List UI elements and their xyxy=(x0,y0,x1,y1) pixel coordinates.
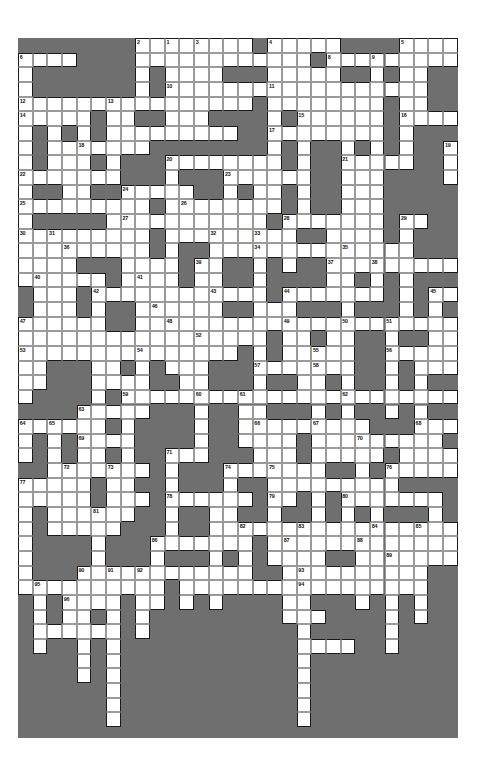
crossword-cell[interactable]: 44 xyxy=(282,287,297,302)
crossword-cell[interactable] xyxy=(47,580,62,595)
crossword-cell[interactable] xyxy=(18,331,33,346)
crossword-cell[interactable] xyxy=(106,668,121,683)
crossword-cell[interactable] xyxy=(370,287,385,302)
crossword-cell[interactable] xyxy=(326,390,341,405)
crossword-cell[interactable] xyxy=(135,331,150,346)
crossword-cell[interactable]: 26 xyxy=(179,199,194,214)
crossword-cell[interactable] xyxy=(326,82,341,97)
crossword-cell[interactable] xyxy=(238,229,253,244)
crossword-cell[interactable] xyxy=(150,317,165,332)
crossword-cell[interactable] xyxy=(18,258,33,273)
crossword-cell[interactable] xyxy=(77,580,92,595)
crossword-cell[interactable] xyxy=(341,639,356,654)
crossword-cell[interactable] xyxy=(428,390,443,405)
crossword-cell[interactable] xyxy=(150,38,165,53)
crossword-cell[interactable] xyxy=(428,419,443,434)
crossword-cell[interactable] xyxy=(91,522,106,537)
crossword-cell[interactable] xyxy=(399,463,414,478)
crossword-cell[interactable] xyxy=(121,258,136,273)
crossword-cell[interactable] xyxy=(282,97,297,112)
crossword-cell[interactable] xyxy=(179,595,194,610)
crossword-cell[interactable] xyxy=(326,214,341,229)
crossword-cell[interactable] xyxy=(194,361,209,376)
crossword-cell[interactable] xyxy=(18,434,33,449)
crossword-cell[interactable] xyxy=(179,448,194,463)
crossword-cell[interactable] xyxy=(77,273,92,288)
crossword-cell[interactable]: 78 xyxy=(165,492,180,507)
crossword-cell[interactable]: 84 xyxy=(370,522,385,537)
crossword-cell[interactable] xyxy=(194,492,209,507)
crossword-cell[interactable] xyxy=(62,302,77,317)
crossword-cell[interactable] xyxy=(209,258,224,273)
crossword-cell[interactable]: 75 xyxy=(267,463,282,478)
crossword-cell[interactable] xyxy=(414,38,429,53)
crossword-cell[interactable] xyxy=(121,243,136,258)
crossword-cell[interactable] xyxy=(341,141,356,156)
crossword-cell[interactable] xyxy=(238,434,253,449)
crossword-cell[interactable] xyxy=(428,361,443,376)
crossword-cell[interactable] xyxy=(135,580,150,595)
crossword-cell[interactable] xyxy=(77,654,92,669)
crossword-cell[interactable] xyxy=(341,419,356,434)
crossword-cell[interactable]: 50 xyxy=(341,317,356,332)
crossword-cell[interactable] xyxy=(47,302,62,317)
crossword-cell[interactable] xyxy=(77,610,92,625)
crossword-cell[interactable] xyxy=(194,53,209,68)
crossword-cell[interactable] xyxy=(282,229,297,244)
crossword-cell[interactable] xyxy=(341,405,356,420)
crossword-cell[interactable] xyxy=(326,67,341,82)
crossword-cell[interactable] xyxy=(326,243,341,258)
crossword-cell[interactable] xyxy=(385,53,400,68)
crossword-cell[interactable] xyxy=(18,126,33,141)
crossword-cell[interactable] xyxy=(311,243,326,258)
crossword-cell[interactable] xyxy=(267,478,282,493)
crossword-cell[interactable] xyxy=(18,507,33,522)
crossword-cell[interactable] xyxy=(18,492,33,507)
crossword-cell[interactable] xyxy=(297,390,312,405)
crossword-cell[interactable] xyxy=(385,331,400,346)
crossword-cell[interactable] xyxy=(33,258,48,273)
crossword-cell[interactable] xyxy=(62,317,77,332)
crossword-cell[interactable]: 71 xyxy=(165,448,180,463)
crossword-cell[interactable] xyxy=(341,229,356,244)
crossword-cell[interactable] xyxy=(121,287,136,302)
crossword-cell[interactable] xyxy=(33,111,48,126)
crossword-cell[interactable] xyxy=(282,463,297,478)
crossword-cell[interactable] xyxy=(194,536,209,551)
crossword-cell[interactable]: 73 xyxy=(106,463,121,478)
crossword-cell[interactable] xyxy=(77,522,92,537)
crossword-cell[interactable]: 52 xyxy=(194,331,209,346)
crossword-cell[interactable] xyxy=(18,141,33,156)
crossword-cell[interactable] xyxy=(267,170,282,185)
crossword-cell[interactable] xyxy=(165,229,180,244)
crossword-cell[interactable] xyxy=(443,155,458,170)
crossword-cell[interactable] xyxy=(355,185,370,200)
crossword-cell[interactable] xyxy=(47,492,62,507)
crossword-cell[interactable] xyxy=(47,199,62,214)
crossword-cell[interactable] xyxy=(282,346,297,361)
crossword-cell[interactable] xyxy=(414,595,429,610)
crossword-cell[interactable] xyxy=(209,580,224,595)
crossword-cell[interactable] xyxy=(18,273,33,288)
crossword-cell[interactable] xyxy=(238,155,253,170)
crossword-cell[interactable]: 27 xyxy=(121,214,136,229)
crossword-cell[interactable] xyxy=(238,566,253,581)
crossword-cell[interactable] xyxy=(414,492,429,507)
crossword-cell[interactable] xyxy=(62,155,77,170)
crossword-cell[interactable] xyxy=(297,155,312,170)
crossword-cell[interactable] xyxy=(209,390,224,405)
crossword-cell[interactable] xyxy=(150,287,165,302)
crossword-cell[interactable] xyxy=(297,639,312,654)
crossword-cell[interactable] xyxy=(370,214,385,229)
crossword-cell[interactable] xyxy=(135,53,150,68)
crossword-cell[interactable] xyxy=(399,97,414,112)
crossword-cell[interactable] xyxy=(253,258,268,273)
crossword-cell[interactable] xyxy=(282,258,297,273)
crossword-cell[interactable] xyxy=(399,126,414,141)
crossword-cell[interactable] xyxy=(341,580,356,595)
crossword-cell[interactable] xyxy=(62,507,77,522)
crossword-cell[interactable] xyxy=(355,82,370,97)
crossword-cell[interactable] xyxy=(385,243,400,258)
crossword-cell[interactable] xyxy=(77,448,92,463)
crossword-cell[interactable] xyxy=(311,82,326,97)
